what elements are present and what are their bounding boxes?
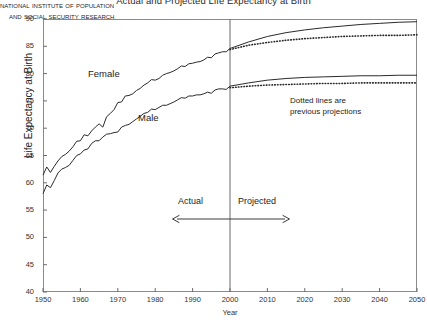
y-tick-label: 80	[0, 70, 34, 78]
series-line	[43, 48, 230, 175]
dotted-lines-note-line1: Dotted lines are	[290, 95, 361, 106]
series-label-female: Female	[88, 68, 120, 79]
y-tick-label: 75	[0, 97, 34, 105]
series-line	[230, 75, 417, 86]
y-tick-label: 85	[0, 42, 34, 50]
y-tick-label: 45	[0, 261, 34, 269]
actual-label: Actual	[178, 196, 203, 206]
series-label-male: Male	[138, 112, 159, 123]
x-tick-label: 1970	[98, 295, 138, 304]
series-line	[230, 83, 417, 88]
dotted-lines-note: Dotted lines are previous projections	[290, 95, 361, 117]
x-tick-label: 2050	[397, 295, 427, 304]
y-tick-label: 90	[0, 15, 34, 23]
x-tick-label: 1990	[173, 295, 213, 304]
x-tick-label: 2010	[247, 295, 287, 304]
x-tick-label: 2030	[322, 295, 362, 304]
x-tick-label: 1980	[135, 295, 175, 304]
chart-svg	[0, 0, 427, 328]
y-tick-label: 65	[0, 152, 34, 160]
chart-container: Actual and Projected Life Expectancy at …	[0, 0, 427, 328]
series-line	[230, 35, 417, 50]
x-tick-label: 1950	[23, 295, 63, 304]
x-tick-label: 2000	[210, 295, 250, 304]
series-line	[43, 86, 230, 194]
x-tick-label: 2020	[285, 295, 325, 304]
y-tick-label: 70	[0, 124, 34, 132]
x-tick-label: 2040	[360, 295, 400, 304]
x-tick-label: 1960	[60, 295, 100, 304]
actual-projected-arrow	[173, 216, 290, 223]
y-tick-label: 55	[0, 206, 34, 214]
dotted-lines-note-line2: previous projections	[290, 106, 361, 117]
y-tick-label: 60	[0, 179, 34, 187]
y-tick-label: 50	[0, 233, 34, 241]
projected-label: Projected	[238, 196, 276, 206]
